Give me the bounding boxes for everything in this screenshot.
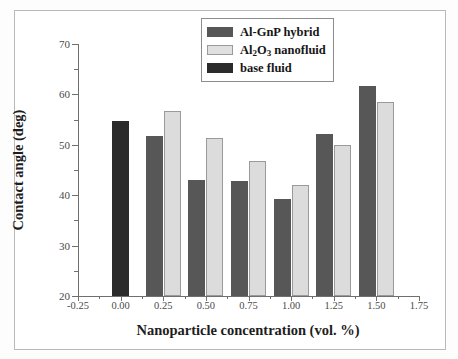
x-tick-label-1.25: 1.25: [325, 300, 343, 311]
bar-al-gnp-hybrid-1.00: [274, 199, 291, 296]
legend-label-al2o3-sub2: 3: [267, 48, 272, 58]
bar-al2o3-nanofluid-0.75: [249, 161, 266, 296]
legend-item-al2o3-nanofluid: Al2O3 nanofluid: [207, 41, 327, 59]
x-tick-minor: [227, 296, 228, 299]
y-tick-50: [72, 145, 78, 146]
y-tick-label-70: 70: [59, 38, 70, 50]
legend-label-base-fluid: base fluid: [240, 61, 292, 76]
y-axis-title: Contact angle (deg): [10, 110, 27, 231]
x-tick-minor: [99, 296, 100, 299]
legend-swatch-base-fluid: [207, 63, 233, 73]
y-tick-label-60: 60: [59, 88, 70, 100]
y-tick-minor: [74, 220, 78, 221]
y-tick-minor: [74, 69, 78, 70]
bar-al2o3-nanofluid-1.00: [292, 185, 309, 296]
x-axis-title: Nanoparticle concentration (vol. %): [136, 322, 359, 339]
y-tick-60: [72, 94, 78, 95]
x-tick-minor: [270, 296, 271, 299]
bar-base-fluid-0.00: [112, 121, 129, 296]
x-tick-label--0.25: -0.25: [67, 300, 89, 311]
bar-al-gnp-hybrid-0.50: [188, 180, 205, 296]
y-tick-minor: [74, 170, 78, 171]
legend-item-al-gnp-hybrid: Al-GnP hybrid: [207, 23, 327, 41]
x-tick-minor: [142, 296, 143, 299]
x-tick-label-0.50: 0.50: [197, 300, 215, 311]
x-tick-minor: [355, 296, 356, 299]
y-tick-minor: [74, 271, 78, 272]
y-tick-label-30: 30: [59, 240, 70, 252]
legend-label-al2o3-part2: O: [257, 43, 267, 57]
x-tick-label-1.00: 1.00: [282, 300, 300, 311]
x-tick-label-1.50: 1.50: [367, 300, 385, 311]
y-tick-label-40: 40: [59, 189, 70, 201]
bar-al2o3-nanofluid-0.25: [164, 111, 181, 296]
y-tick-40: [72, 195, 78, 196]
x-tick-minor: [185, 296, 186, 299]
bar-al2o3-nanofluid-0.50: [206, 138, 223, 296]
legend-item-base-fluid: base fluid: [207, 59, 327, 77]
x-tick-minor: [312, 296, 313, 299]
bar-al-gnp-hybrid-1.25: [316, 134, 333, 296]
y-tick-label-50: 50: [59, 139, 70, 151]
legend-label-al2o3-nanofluid: Al2O3 nanofluid: [240, 43, 326, 58]
bar-al-gnp-hybrid-0.25: [146, 136, 163, 296]
chart-legend: Al-GnP hybrid Al2O3 nanofluid base fluid: [201, 18, 334, 82]
bar-al2o3-nanofluid-1.25: [334, 145, 351, 296]
x-tick-label-1.75: 1.75: [410, 300, 428, 311]
legend-label-al2o3-part3: nanofluid: [271, 43, 326, 57]
y-tick-30: [72, 246, 78, 247]
y-tick-minor: [74, 120, 78, 121]
y-axis-line: [78, 44, 79, 297]
legend-swatch-al-gnp-hybrid: [207, 27, 233, 37]
bar-al2o3-nanofluid-1.50: [377, 102, 394, 296]
y-tick-70: [72, 44, 78, 45]
figure-container: 203040506070 -0.250.000.250.500.751.001.…: [0, 0, 458, 359]
x-tick-label-0.00: 0.00: [111, 300, 129, 311]
bar-al-gnp-hybrid-0.75: [231, 181, 248, 296]
legend-label-al2o3-part1: Al: [240, 43, 253, 57]
bar-al-gnp-hybrid-1.50: [359, 86, 376, 296]
legend-label-al-gnp-hybrid: Al-GnP hybrid: [240, 25, 320, 40]
legend-swatch-al2o3-nanofluid: [207, 45, 233, 55]
x-tick-minor: [398, 296, 399, 299]
x-tick-label-0.25: 0.25: [154, 300, 172, 311]
x-tick-label-0.75: 0.75: [239, 300, 257, 311]
legend-label-al2o3-sub1: 2: [253, 48, 258, 58]
